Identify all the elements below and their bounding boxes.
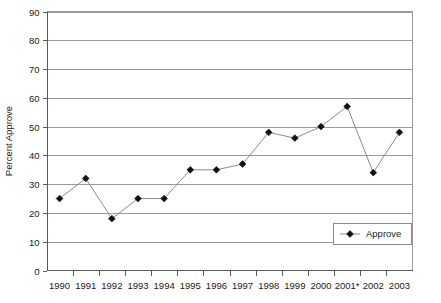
x-tick-label-1999: 1999 [284,280,305,291]
x-tick-label-2002: 2002 [363,280,384,291]
y-tick-label-40: 40 [29,150,40,161]
x-tick-label-2000: 2000 [310,280,331,291]
y-tick-label-60: 60 [29,93,40,104]
y-tick-label-80: 80 [29,35,40,46]
x-tick-label-1995: 1995 [180,280,201,291]
legend-label-approve: Approve [366,228,401,239]
x-tick-label-2003: 2003 [389,280,410,291]
x-tick-label-1996: 1996 [206,280,227,291]
data-point-2002 [370,169,377,176]
y-tick-label-0: 0 [34,266,39,277]
legend: Approve [334,224,412,245]
chart-container: 0102030405060708090199019911992199319941… [0,0,441,303]
x-tick-label-1993: 1993 [127,280,148,291]
y-tick-label-20: 20 [29,208,40,219]
x-tick-label-2001star: 2001* [335,280,360,291]
x-tick-label-1990: 1990 [49,280,70,291]
y-tick-label-10: 10 [29,237,40,248]
x-tick-label-1991: 1991 [75,280,96,291]
y-tick-label-70: 70 [29,64,40,75]
data-point-2003 [396,129,403,136]
x-tick-label-1998: 1998 [258,280,279,291]
y-axis-title: Percent Approve [3,106,14,176]
data-point-1999 [291,135,298,142]
x-tick-label-1992: 1992 [101,280,122,291]
series-line-approve [60,106,400,218]
y-tick-label-30: 30 [29,179,40,190]
line-chart: 0102030405060708090199019911992199319941… [0,0,441,303]
data-point-1996 [213,166,220,173]
x-tick-label-1994: 1994 [154,280,175,291]
y-tick-label-50: 50 [29,122,40,133]
y-tick-label-90: 90 [29,7,40,18]
series-approve [56,103,403,222]
x-axis-group: 1990199119921993199419951996199719981999… [49,271,410,291]
x-tick-label-1997: 1997 [232,280,253,291]
